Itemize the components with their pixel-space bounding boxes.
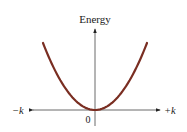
energy-dispersion-chart: Energy −k +k 0 — [0, 0, 187, 132]
x-axis-right-label: +k — [164, 105, 176, 116]
y-axis-label: Energy — [79, 13, 111, 25]
origin-label: 0 — [86, 114, 91, 125]
x-axis-left-label: −k — [12, 105, 24, 116]
